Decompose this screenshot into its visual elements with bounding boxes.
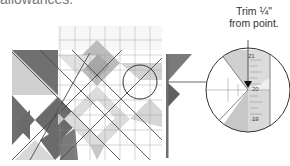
ruler-label-middle: 20 — [252, 86, 259, 92]
ruler-label-top: 21 — [248, 53, 255, 59]
quilt-block — [12, 40, 162, 160]
block-edge-detail — [166, 54, 210, 158]
quilt-trim-diagram — [0, 0, 290, 166]
ruler-top-extension — [58, 26, 162, 50]
ruler-label-bottom: 19 — [252, 116, 259, 122]
